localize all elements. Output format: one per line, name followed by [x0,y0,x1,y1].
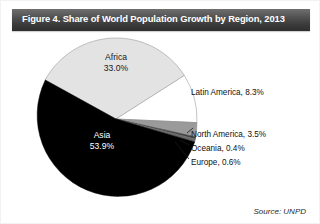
figure-container: Figure 4. Share of World Population Grow… [0,0,320,224]
slice-label-asia-percent: 53.9% [62,141,142,152]
source-note: Source: UNPD [254,207,306,216]
figure-title: Figure 4. Share of World Population Grow… [22,13,308,24]
slice-label-oceania: Oceania, 0.4% [191,144,245,153]
pie-chart-area: Africa 33.0% Asia 53.9% Latin America, 8… [0,32,320,224]
slice-label-africa: Africa 33.0% [76,52,156,74]
slice-label-europe: Europe, 0.6% [191,158,241,167]
slice-label-asia-name: Asia [62,130,142,141]
slice-label-africa-percent: 33.0% [76,63,156,74]
pie-chart-svg [0,32,320,224]
slice-label-north-america: North America, 3.5% [191,130,266,139]
slice-label-asia: Asia 53.9% [62,130,142,152]
slice-label-africa-name: Africa [76,52,156,63]
slice-label-latin-america: Latin America, 8.3% [191,88,264,97]
